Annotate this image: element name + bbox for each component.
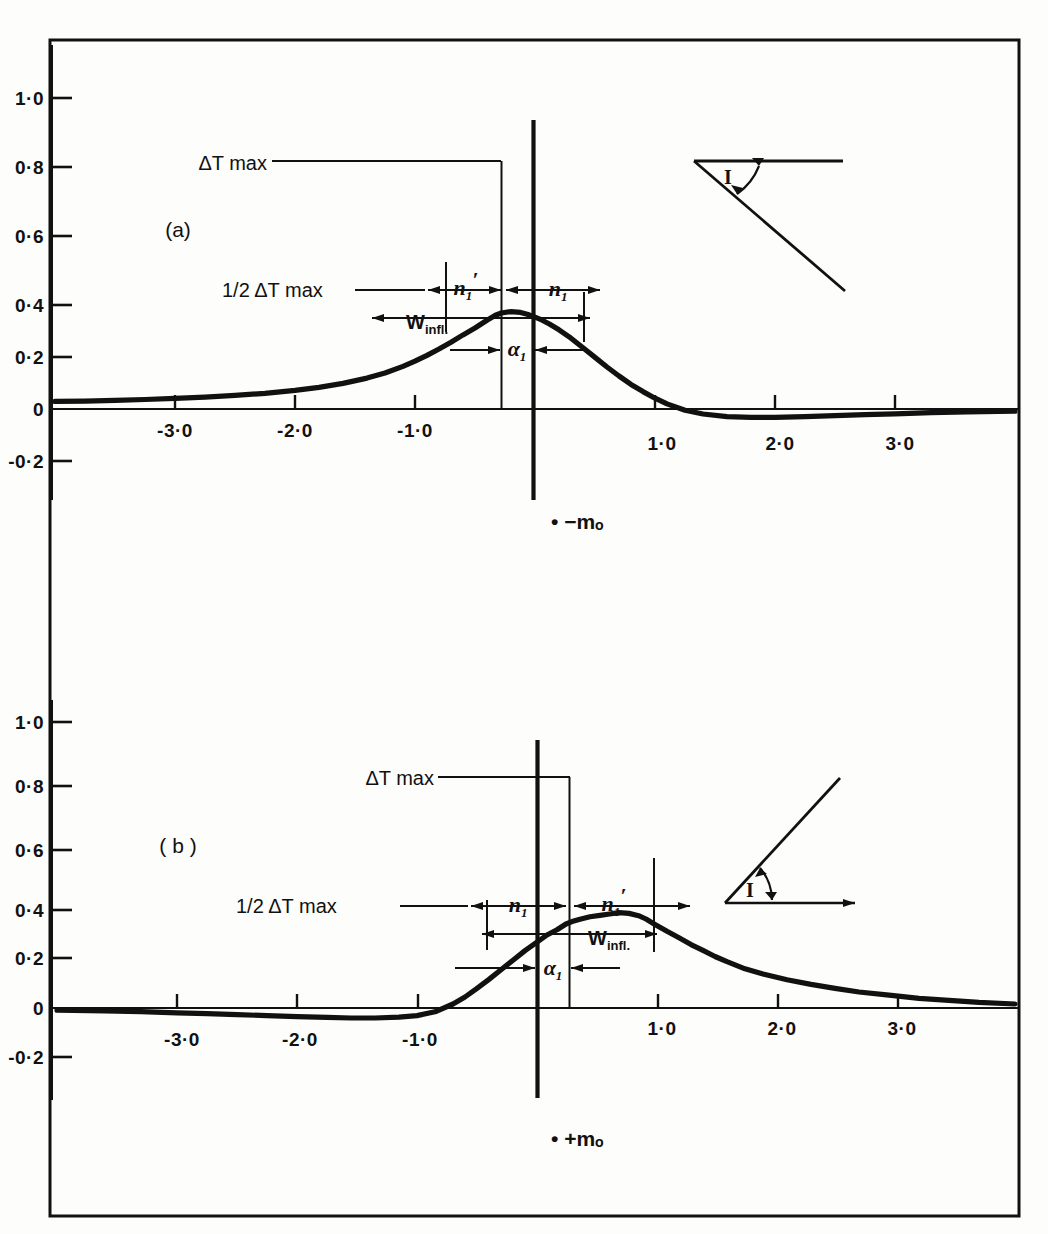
panel-a-xtick-neg1: -1·0 <box>397 420 433 441</box>
panel-b-halfdtmax-label: 1/2 ΔT max <box>236 895 337 917</box>
figure-svg: 1·0 0·8 0·6 0·4 0·2 0 -0·2 -3·0 -2·0 -1·… <box>0 0 1048 1234</box>
panel-b-label: ( b ) <box>159 834 196 857</box>
panel-a-ytick-neg0p2: -0·2 <box>8 451 44 472</box>
panel-a: 1·0 0·8 0·6 0·4 0·2 0 -0·2 -3·0 -2·0 -1·… <box>8 45 1019 533</box>
panel-b-alpha-label: α1 <box>544 955 563 983</box>
panel-b-inset <box>725 778 855 907</box>
panel-a-alpha-label: α1 <box>508 336 527 364</box>
panel-b-ytick-0p6: 0·6 <box>15 840 44 861</box>
panel-b-inset-sloped <box>725 778 840 903</box>
panel-a-ytick-0p2: 0·2 <box>15 347 44 368</box>
panel-b-ytick-0: 0 <box>33 998 44 1019</box>
panel-b-inset-label: I <box>746 879 754 901</box>
panel-b-n1-label: n1 <box>509 892 528 920</box>
panel-a-n1-label: n1 <box>549 276 568 304</box>
figure-container: 1·0 0·8 0·6 0·4 0·2 0 -0·2 -3·0 -2·0 -1·… <box>0 0 1048 1234</box>
panel-a-inset-label: I <box>724 166 732 188</box>
panel-a-inset <box>694 158 845 291</box>
panel-a-xtick-neg2: -2·0 <box>277 420 313 441</box>
panel-b-inset-horizontal-arrowhead <box>843 899 855 907</box>
panel-a-y-ticks <box>52 98 72 461</box>
panel-a-dtmax-label: ΔT max <box>198 152 267 174</box>
panel-b-xtick-3: 3·0 <box>888 1018 917 1039</box>
panel-b-inset-arrowhead-bottom <box>765 892 777 900</box>
panel-a-inset-sloped <box>694 161 845 291</box>
panel-b-xtick-1: 1·0 <box>648 1018 677 1039</box>
panel-b-ytick-0p4: 0·4 <box>15 900 44 921</box>
panel-a-label: (a) <box>165 218 191 241</box>
panel-b-ytick-1p0: 1·0 <box>15 712 44 733</box>
panel-b-ytick-0p2: 0·2 <box>15 948 44 969</box>
panel-b: 1·0 0·8 0·6 0·4 0·2 0 -0·2 -3·0 -2·0 -1·… <box>8 700 1019 1150</box>
panel-a-xtick-neg3: -3·0 <box>157 420 193 441</box>
panel-b-ytick-neg0p2: -0·2 <box>8 1047 44 1068</box>
panel-b-xtick-2: 2·0 <box>768 1018 797 1039</box>
panel-a-ytick-0p6: 0·6 <box>15 226 44 247</box>
panel-a-ytick-0p4: 0·4 <box>15 295 44 316</box>
panel-a-xtick-3: 3·0 <box>886 433 915 454</box>
panel-b-winfl-label: Winfl. <box>588 927 630 953</box>
panel-b-dtmax-label: ΔT max <box>365 767 434 789</box>
panel-a-ytick-0: 0 <box>33 399 44 420</box>
panel-b-caption: • +mₒ <box>551 1127 604 1150</box>
panel-b-xtick-neg3: -3·0 <box>164 1029 200 1050</box>
panel-a-ytick-1p0: 1·0 <box>15 88 44 109</box>
panel-a-xtick-2: 2·0 <box>766 433 795 454</box>
panel-b-ytick-0p8: 0·8 <box>15 776 44 797</box>
panel-b-xtick-neg1: -1·0 <box>402 1029 438 1050</box>
panel-b-xtick-neg2: -2·0 <box>282 1029 318 1050</box>
panel-a-winfl-label: Winfl. <box>406 311 448 337</box>
panel-b-y-ticks <box>52 722 72 1057</box>
panel-a-halfdtmax-label: 1/2 ΔT max <box>222 279 323 301</box>
panel-a-ytick-0p8: 0·8 <box>15 157 44 178</box>
panel-a-caption: • −mₒ <box>551 510 604 533</box>
panel-a-xtick-1: 1·0 <box>648 433 677 454</box>
panel-a-n1prime-label: n1′ <box>454 267 479 303</box>
